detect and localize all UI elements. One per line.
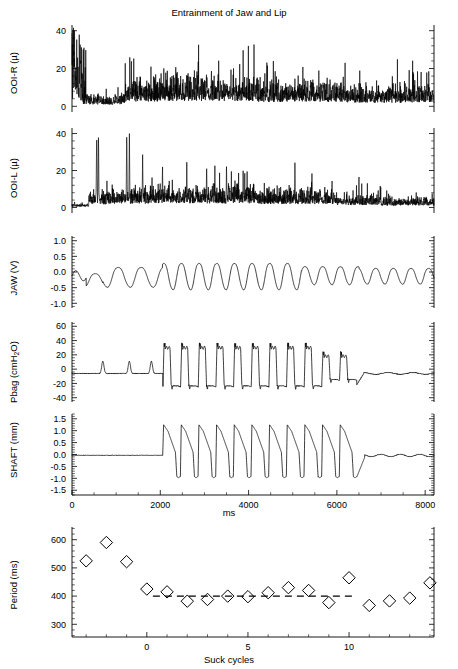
panel-period-xlabel: Suck cycles <box>204 654 254 665</box>
ytick-label: -1.5 <box>50 485 66 495</box>
xtick-label: 8000 <box>415 500 435 510</box>
xtick-label: 2000 <box>150 500 170 510</box>
ytick-label: 0 <box>61 364 66 374</box>
panel-shaft-xlabel: ms <box>223 507 236 518</box>
ytick-label: 60 <box>56 321 66 331</box>
ytick-label: 1.0 <box>53 236 66 246</box>
panel-pbag-ylabel: Pbag (cmH2O) <box>8 341 20 403</box>
ytick-label: 600 <box>51 535 66 545</box>
ytick-label: 0.5 <box>53 252 66 262</box>
xtick-label: 6000 <box>327 500 347 510</box>
xtick-label: 10 <box>344 642 354 652</box>
figure-title: Entrainment of Jaw and Lip <box>171 7 286 18</box>
figure-background <box>0 0 458 669</box>
xtick-label: 5 <box>245 642 250 652</box>
xtick-label: 0 <box>144 642 149 652</box>
ytick-label: 40 <box>56 26 66 36</box>
ytick-label: 20 <box>56 64 66 74</box>
panel-shaft-ylabel: SHAFT (mm) <box>8 422 19 478</box>
ytick-label: 0 <box>61 203 66 213</box>
panel-pbag-ylabel-pre: Pbag (cmH <box>8 355 19 403</box>
ytick-label: 1.5 <box>53 414 66 424</box>
ytick-label: 20 <box>56 350 66 360</box>
ytick-label: 0.0 <box>53 450 66 460</box>
panel-jaw-ylabel: JAW (V) <box>8 260 19 295</box>
figure-canvas: Entrainment of Jaw and Lip OOI-R (µ) 020… <box>0 0 458 669</box>
ytick-label: -1.0 <box>50 299 66 309</box>
ytick-label: 0.0 <box>53 267 66 277</box>
ytick-label: -20 <box>53 379 66 389</box>
ytick-label: -40 <box>53 393 66 403</box>
ytick-label: 400 <box>51 591 66 601</box>
panel-period-ylabel: Period (ms) <box>8 560 19 609</box>
panel-pbag-ylabel-post: O) <box>8 341 19 352</box>
xtick-label: 4000 <box>239 500 259 510</box>
ytick-label: 1.0 <box>53 426 66 436</box>
ytick-label: 20 <box>56 166 66 176</box>
panel-ooi-l-ylabel: OOI-L (µ) <box>8 158 19 198</box>
ytick-label: 0 <box>61 102 66 112</box>
ytick-label: 0.5 <box>53 438 66 448</box>
ytick-label: 500 <box>51 563 66 573</box>
ytick-label: -0.5 <box>50 283 66 293</box>
figure-entrainment-of-jaw-and-lip: Entrainment of Jaw and Lip OOI-R (µ) 020… <box>0 0 458 669</box>
ytick-label: -1.0 <box>50 474 66 484</box>
ytick-label: -0.5 <box>50 462 66 472</box>
ytick-label: 40 <box>56 336 66 346</box>
ytick-label: 300 <box>51 620 66 630</box>
panel-ooi-r-ylabel: OOI-R (µ) <box>8 52 19 94</box>
ytick-label: 40 <box>56 129 66 139</box>
panel-shaft-ytick-labels: -1.5-1.0-0.50.00.51.01.5 <box>50 414 66 495</box>
xtick-label: 0 <box>69 500 74 510</box>
